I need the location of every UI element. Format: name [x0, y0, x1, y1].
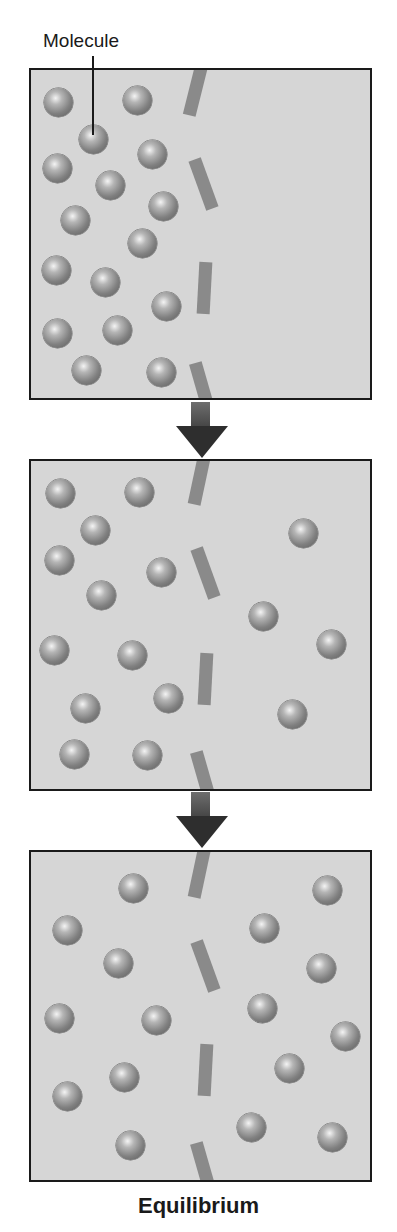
molecule-sphere: [147, 558, 176, 587]
molecule-sphere: [142, 1006, 171, 1035]
arrow-down-icon: [176, 426, 228, 458]
membrane-segment: [197, 262, 213, 315]
molecule-sphere: [237, 1113, 266, 1142]
membrane-segment: [190, 939, 220, 992]
membrane-segment: [190, 1141, 217, 1182]
molecule-sphere: [123, 86, 152, 115]
membrane-segment: [188, 850, 212, 899]
molecule-sphere: [91, 268, 120, 297]
molecule-sphere: [275, 1054, 304, 1083]
membrane-segment: [198, 653, 214, 706]
molecule-sphere: [53, 916, 82, 945]
arrow-down-icon: [176, 816, 228, 848]
molecule-sphere: [307, 954, 336, 983]
molecule-sphere: [96, 171, 125, 200]
molecule-sphere: [119, 874, 148, 903]
membrane-segment: [190, 546, 220, 599]
membrane-segment: [183, 68, 208, 117]
molecule-sphere: [71, 694, 100, 723]
molecule-sphere: [110, 1063, 139, 1092]
molecule-sphere: [250, 914, 279, 943]
molecule-sphere: [289, 519, 318, 548]
molecule-sphere: [45, 546, 74, 575]
molecule-sphere: [42, 256, 71, 285]
molecule-sphere: [104, 949, 133, 978]
arrow-shaft: [191, 402, 210, 428]
membrane-segment: [188, 459, 212, 506]
molecule-sphere: [46, 479, 75, 508]
molecule-sphere: [149, 192, 178, 221]
molecule-sphere: [72, 356, 101, 385]
molecule-sphere: [53, 1082, 82, 1111]
molecule-sphere: [44, 88, 73, 117]
equilibrium-caption: Equilibrium: [0, 1193, 397, 1219]
molecule-sphere: [61, 206, 90, 235]
molecule-sphere: [125, 478, 154, 507]
membrane-segment: [188, 157, 218, 210]
molecule-sphere: [116, 1131, 145, 1160]
molecule-sphere: [40, 636, 69, 665]
molecule-sphere: [87, 581, 116, 610]
molecule-sphere: [318, 1123, 347, 1152]
membrane-segment: [189, 361, 216, 400]
molecule-leader-line: [92, 56, 94, 135]
molecule-sphere: [43, 319, 72, 348]
molecule-label: Molecule: [43, 30, 119, 52]
molecule-sphere: [331, 1022, 360, 1051]
molecule-sphere: [278, 700, 307, 729]
molecule-sphere: [81, 516, 110, 545]
molecule-sphere: [45, 1004, 74, 1033]
arrow-shaft: [191, 792, 210, 818]
membrane-segment: [190, 750, 217, 791]
molecule-sphere: [313, 876, 342, 905]
molecule-sphere: [138, 140, 167, 169]
molecule-sphere: [152, 292, 181, 321]
molecule-sphere: [103, 316, 132, 345]
molecule-sphere: [147, 358, 176, 387]
molecule-sphere: [133, 741, 162, 770]
molecule-sphere: [248, 994, 277, 1023]
molecule-sphere: [317, 630, 346, 659]
molecule-sphere: [128, 229, 157, 258]
molecule-sphere: [249, 602, 278, 631]
molecule-sphere: [118, 641, 147, 670]
membrane-segment: [198, 1044, 214, 1097]
molecule-sphere: [43, 154, 72, 183]
molecule-sphere: [60, 740, 89, 769]
molecule-sphere: [154, 684, 183, 713]
